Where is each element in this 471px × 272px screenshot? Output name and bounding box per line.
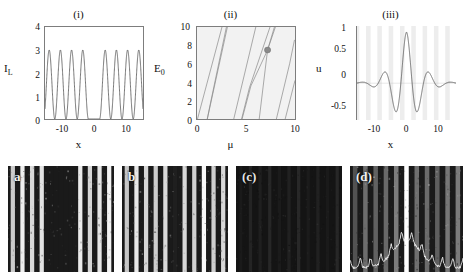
- speckle: [377, 169, 378, 170]
- speckle: [417, 204, 418, 206]
- speckle: [333, 197, 334, 199]
- speckle: [450, 219, 451, 221]
- speckle: [210, 219, 212, 220]
- speckle: [85, 248, 86, 250]
- speckle: [337, 204, 339, 206]
- speckle: [276, 172, 277, 174]
- speckle: [43, 229, 44, 231]
- speckle: [224, 230, 226, 232]
- speckle: [244, 229, 245, 230]
- speckle: [236, 258, 237, 260]
- speckle: [340, 187, 342, 188]
- speckle: [245, 251, 247, 253]
- speckle: [211, 193, 212, 195]
- speckle: [220, 200, 221, 202]
- speckle: [367, 264, 368, 265]
- speckle: [210, 210, 211, 212]
- speckle: [258, 189, 259, 190]
- speckle: [406, 218, 408, 219]
- ccd-image-a: a: [8, 166, 114, 272]
- speckle: [105, 235, 107, 236]
- speckle: [294, 266, 295, 268]
- speckle: [378, 267, 380, 269]
- speckle: [282, 220, 283, 221]
- panel-i-ylabel: IL: [4, 62, 13, 77]
- speckle: [143, 264, 144, 265]
- speckle: [136, 171, 137, 172]
- speckle: [8, 238, 9, 240]
- speckle: [436, 171, 438, 172]
- speckle: [28, 174, 30, 176]
- speckle: [25, 202, 27, 204]
- speckle: [283, 194, 285, 196]
- speckle: [303, 170, 304, 171]
- speckle: [403, 220, 404, 222]
- speckle: [334, 231, 336, 232]
- speckle: [283, 229, 284, 230]
- speckle: [50, 229, 51, 230]
- speckle: [65, 263, 67, 265]
- speckle: [15, 192, 16, 194]
- speckle: [174, 175, 175, 176]
- interference-fringe: [326, 166, 329, 272]
- speckle: [289, 252, 290, 253]
- speckle: [404, 171, 405, 172]
- ccd-image-b: b: [122, 166, 228, 272]
- speckle: [99, 226, 100, 227]
- speckle: [66, 251, 67, 253]
- branch-curve: [242, 27, 274, 119]
- speckle: [319, 198, 320, 199]
- speckle: [384, 256, 385, 257]
- speckle: [158, 226, 159, 227]
- speckle: [434, 199, 435, 200]
- speckle: [245, 194, 247, 195]
- speckle: [453, 182, 454, 183]
- speckle: [28, 206, 29, 207]
- speckle: [278, 253, 280, 255]
- speckle: [436, 176, 438, 177]
- speckle: [194, 214, 195, 215]
- speckle: [80, 242, 81, 244]
- speckle: [217, 170, 219, 171]
- speckle: [446, 183, 447, 185]
- speckle: [284, 253, 285, 254]
- speckle: [52, 232, 54, 233]
- speckle: [134, 222, 135, 223]
- speckle: [286, 197, 287, 198]
- speckle: [87, 246, 88, 248]
- panel-ii-xtick-5: 5: [231, 124, 261, 134]
- speckle: [66, 176, 67, 178]
- panel-i-xtick-1: 0: [79, 124, 109, 134]
- speckle: [419, 171, 420, 172]
- speckle: [395, 215, 396, 216]
- speckle: [207, 229, 208, 231]
- speckle: [372, 241, 373, 243]
- speckle: [357, 166, 359, 167]
- speckle: [321, 228, 322, 229]
- speckle: [26, 258, 27, 260]
- ccd-image-d-label: (d): [356, 169, 372, 185]
- speckle: [267, 171, 269, 172]
- speckle: [256, 206, 257, 207]
- speckle: [324, 176, 325, 178]
- speckle: [224, 228, 226, 230]
- speckle: [405, 245, 406, 246]
- panel-iii-xlabel: x: [312, 138, 469, 150]
- speckle: [453, 242, 454, 244]
- speckle: [397, 212, 398, 214]
- speckle: [202, 187, 203, 189]
- speckle: [262, 226, 263, 228]
- interference-fringe: [445, 166, 450, 272]
- speckle: [204, 234, 205, 236]
- speckle: [226, 240, 227, 242]
- speckle: [278, 212, 279, 213]
- speckle: [62, 246, 63, 247]
- interference-fringe: [373, 166, 378, 272]
- speckle: [108, 256, 110, 258]
- speckle: [45, 213, 46, 215]
- speckle: [194, 237, 195, 238]
- speckle: [247, 191, 248, 193]
- speckle: [67, 220, 68, 222]
- speckle: [57, 267, 58, 268]
- speckle: [156, 263, 157, 264]
